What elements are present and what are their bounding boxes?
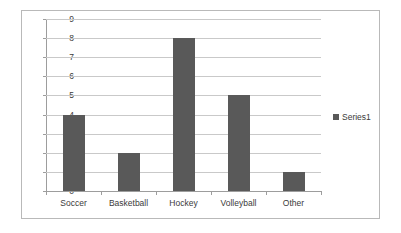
chart-frame: 0123456789 SoccerBasketballHockeyVolleyb… — [21, 10, 380, 219]
chart-legend: Series1 — [333, 113, 371, 122]
gridline — [46, 191, 321, 192]
bar-soccer[interactable] — [63, 115, 85, 191]
bar-other[interactable] — [283, 172, 305, 191]
x-axis-tick-label: Other — [283, 199, 304, 208]
x-axis-tick-mark — [211, 191, 212, 195]
gridline — [46, 19, 321, 20]
x-axis-tick-mark — [101, 191, 102, 195]
x-axis-tick-mark — [321, 191, 322, 195]
bar-hockey[interactable] — [173, 38, 195, 191]
bar-basketball[interactable] — [118, 153, 140, 191]
x-axis-tick-label: Soccer — [60, 199, 86, 208]
bar-volleyball[interactable] — [228, 95, 250, 191]
x-axis-tick-label: Hockey — [169, 199, 197, 208]
x-axis-tick-mark — [266, 191, 267, 195]
x-axis-tick-mark — [46, 191, 47, 195]
legend-swatch-icon — [333, 114, 339, 120]
plot-area — [46, 19, 321, 191]
legend-label: Series1 — [342, 113, 371, 122]
x-axis-tick-label: Volleyball — [221, 199, 257, 208]
x-axis-tick-mark — [156, 191, 157, 195]
x-axis-tick-label: Basketball — [109, 199, 148, 208]
